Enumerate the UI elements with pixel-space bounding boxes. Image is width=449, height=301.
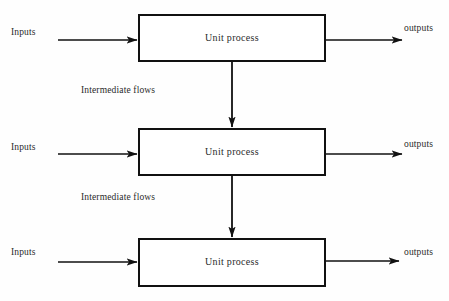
- unit-process-title-2: Unit process: [138, 146, 326, 158]
- unit-process-flow-diagram: Inputs outputs Unit process Intermediate…: [0, 0, 449, 301]
- input-label-1: Inputs: [11, 27, 36, 38]
- output-label-2: outputs: [404, 139, 433, 150]
- unit-process-title-3: Unit process: [138, 256, 326, 268]
- intermediate-flows-label-1: Intermediate flows: [81, 85, 155, 96]
- intermediate-flows-label-2: Intermediate flows: [81, 192, 155, 203]
- unit-process-title-1: Unit process: [138, 32, 326, 44]
- input-label-2: Inputs: [11, 142, 36, 153]
- output-label-1: outputs: [404, 23, 433, 34]
- output-label-3: outputs: [404, 247, 433, 258]
- input-label-3: Inputs: [11, 247, 36, 258]
